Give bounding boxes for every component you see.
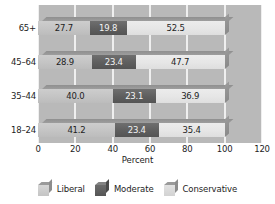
bar-segment-liberal: 40.0 [38, 89, 113, 103]
bar-value-label: 35.4 [183, 126, 201, 135]
bar-value-label: 23.1 [125, 92, 143, 101]
legend-item-liberal[interactable]: Liberal [38, 182, 85, 196]
bar-stack: 27.719.852.5 [38, 21, 225, 35]
bar-value-label: 47.7 [171, 58, 189, 67]
bar-segment-moderate: 23.4 [115, 123, 159, 137]
swatch-side-face [106, 179, 109, 193]
x-axis-tick-label: 40 [107, 145, 117, 154]
bar-segment-liberal: 41.2 [38, 123, 115, 137]
bar-segment-moderate: 19.8 [90, 21, 127, 35]
bar-segment-conservative: 47.7 [136, 55, 225, 69]
x-axis-tick-label: 0 [35, 145, 40, 154]
bar-segment-moderate: 23.4 [92, 55, 136, 69]
legend-label: Moderate [114, 185, 154, 194]
y-axis: 65+45–6435–4418–24 [0, 5, 36, 143]
bars-layer: 27.719.852.528.923.447.740.023.136.941.2… [38, 5, 262, 143]
swatch-front-face [38, 185, 49, 196]
bar-right-cap [225, 13, 229, 35]
bar-stack: 41.223.435.4 [38, 123, 225, 137]
legend-label: Conservative [183, 185, 238, 194]
bar-segment-conservative: 35.4 [159, 123, 225, 137]
stacked-bar-chart: 65+45–6435–4418–24 27.719.852.528.923.44… [0, 0, 275, 204]
x-axis-tick-label: 60 [145, 145, 155, 154]
x-axis-tick-label: 120 [254, 145, 270, 154]
legend-label: Liberal [57, 185, 85, 194]
x-axis-tick-label: 80 [182, 145, 192, 154]
bar-value-label: 40.0 [66, 92, 84, 101]
bar-right-cap [225, 81, 229, 103]
bar-value-label: 28.9 [56, 58, 74, 67]
y-axis-tick-label: 45–64 [2, 58, 36, 67]
bar-stack: 40.023.136.9 [38, 89, 225, 103]
bar-segment-liberal: 28.9 [38, 55, 92, 69]
bar-segment-moderate: 23.1 [113, 89, 156, 103]
x-axis-tick-label: 20 [70, 145, 80, 154]
legend-item-moderate[interactable]: Moderate [95, 182, 154, 196]
y-axis-tick-label: 18–24 [2, 126, 36, 135]
x-axis-tick-label: 100 [217, 145, 233, 154]
swatch-front-face [95, 185, 106, 196]
legend-swatch-icon [38, 182, 52, 196]
bar-value-label: 52.5 [167, 24, 185, 33]
bar-value-label: 27.7 [55, 24, 73, 33]
y-axis-tick-label: 35–44 [2, 92, 36, 101]
swatch-side-face [49, 179, 52, 193]
plot-area: 27.719.852.528.923.447.740.023.136.941.2… [38, 5, 262, 143]
bar-segment-conservative: 36.9 [156, 89, 225, 103]
bar-value-label: 41.2 [67, 126, 85, 135]
legend-swatch-icon [95, 182, 109, 196]
bar-value-label: 36.9 [181, 92, 199, 101]
bar-right-cap [225, 115, 229, 137]
bar-segment-liberal: 27.7 [38, 21, 90, 35]
swatch-front-face [164, 185, 175, 196]
legend-item-conservative[interactable]: Conservative [164, 182, 238, 196]
swatch-side-face [175, 179, 178, 193]
bar-value-label: 23.4 [105, 58, 123, 67]
bar-right-cap [225, 47, 229, 69]
bar-value-label: 23.4 [128, 126, 146, 135]
bar-segment-conservative: 52.5 [127, 21, 225, 35]
y-axis-tick-label: 65+ [2, 24, 36, 33]
bar-value-label: 19.8 [99, 24, 117, 33]
legend-swatch-icon [164, 182, 178, 196]
chart-legend: LiberalModerateConservative [0, 178, 275, 200]
bar-stack: 28.923.447.7 [38, 55, 225, 69]
x-axis-title: Percent [0, 156, 275, 165]
